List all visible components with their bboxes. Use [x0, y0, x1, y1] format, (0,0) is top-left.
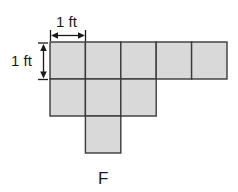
height-dimension-arrow	[38, 43, 48, 80]
unit-square	[85, 42, 120, 79]
unit-square	[156, 42, 191, 79]
figure-label: F	[98, 170, 108, 187]
unit-square	[85, 116, 120, 153]
shape-diagram: 1 ft 1 ft F	[0, 0, 238, 192]
width-dimension-arrow	[51, 30, 86, 41]
unit-square	[50, 79, 85, 116]
unit-height-label: 1 ft	[11, 53, 32, 68]
unit-square	[85, 79, 120, 116]
unit-square	[50, 42, 85, 79]
unit-width-label: 1 ft	[56, 14, 77, 29]
unit-square	[192, 42, 227, 79]
unit-square	[121, 42, 156, 79]
unit-squares	[50, 42, 227, 153]
square-grid-figure	[0, 0, 238, 192]
unit-square	[121, 79, 156, 116]
